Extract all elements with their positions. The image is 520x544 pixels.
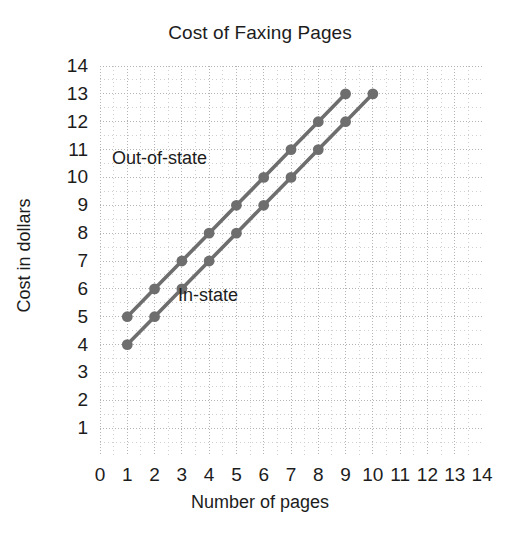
x-tick-label: 5	[216, 465, 256, 484]
y-tick-label: 1	[46, 418, 88, 437]
data-point	[313, 144, 324, 155]
y-tick-label: 3	[46, 362, 88, 381]
y-axis-title: Cost in dollars	[14, 146, 35, 366]
x-axis-title: Number of pages	[0, 492, 520, 513]
y-tick-label: 6	[46, 279, 88, 298]
x-tick-label: 0	[80, 465, 120, 484]
y-tick-label: 10	[46, 167, 88, 186]
x-tick-label: 4	[189, 465, 229, 484]
data-point	[149, 283, 160, 294]
y-tick-label: 4	[46, 335, 88, 354]
plot-svg	[100, 66, 482, 456]
chart-container: Cost of Faxing Pages 1234567891011121314…	[0, 0, 520, 544]
data-point	[340, 88, 351, 99]
series-label-in-state: In-state	[178, 285, 238, 306]
y-tick-label: 9	[46, 195, 88, 214]
y-tick-label: 5	[46, 307, 88, 326]
data-point	[258, 200, 269, 211]
x-tick-label: 2	[135, 465, 175, 484]
data-point	[204, 256, 215, 267]
chart-title: Cost of Faxing Pages	[0, 22, 520, 44]
x-tick-label: 13	[435, 465, 475, 484]
y-tick-label: 11	[46, 140, 88, 159]
x-tick-label: 6	[244, 465, 284, 484]
x-tick-label: 14	[462, 465, 502, 484]
x-tick-label: 12	[407, 465, 447, 484]
x-tick-label: 3	[162, 465, 202, 484]
x-tick-label: 1	[107, 465, 147, 484]
series-label-out-of-state: Out-of-state	[112, 148, 207, 169]
y-tick-label: 7	[46, 251, 88, 270]
x-tick-label: 7	[271, 465, 311, 484]
y-tick-label: 12	[46, 112, 88, 131]
data-point	[176, 256, 187, 267]
data-point	[286, 144, 297, 155]
data-point	[149, 311, 160, 322]
y-tick-label: 14	[46, 56, 88, 75]
x-tick-label: 9	[326, 465, 366, 484]
data-point	[122, 339, 133, 350]
data-point	[122, 311, 133, 322]
y-tick-label: 13	[46, 84, 88, 103]
data-point	[286, 172, 297, 183]
x-tick-label: 10	[353, 465, 393, 484]
data-point	[258, 172, 269, 183]
data-point	[340, 116, 351, 127]
grid-major	[100, 66, 482, 456]
x-tick-label: 11	[380, 465, 420, 484]
data-point	[231, 200, 242, 211]
x-tick-label: 8	[298, 465, 338, 484]
data-point	[204, 228, 215, 239]
data-point	[367, 88, 378, 99]
plot-area	[100, 66, 482, 456]
y-tick-label: 2	[46, 390, 88, 409]
data-point	[313, 116, 324, 127]
y-tick-label: 8	[46, 223, 88, 242]
data-point	[231, 228, 242, 239]
